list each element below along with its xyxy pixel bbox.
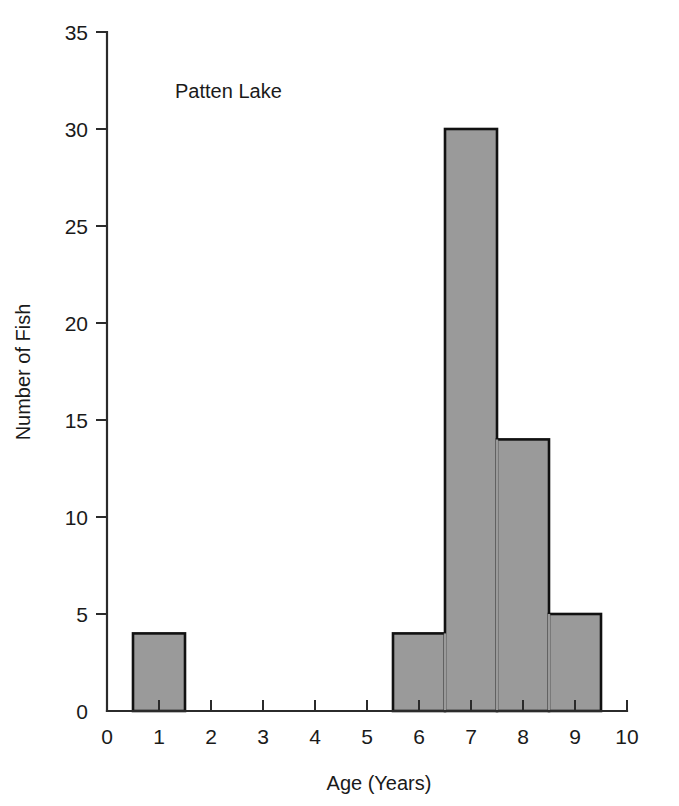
x-tick-label: 3 — [257, 725, 269, 748]
x-tick-label: 7 — [465, 725, 477, 748]
x-tick-label: 8 — [517, 725, 529, 748]
series-annotation-label: Patten Lake — [175, 80, 282, 102]
histogram-bar — [393, 633, 445, 711]
x-tick-label: 5 — [361, 725, 373, 748]
histogram-bar — [497, 439, 549, 711]
y-tick-label: 20 — [65, 312, 88, 335]
x-axis-title: Age (Years) — [327, 772, 432, 794]
x-tick-label: 6 — [413, 725, 425, 748]
x-tick-label: 10 — [615, 725, 638, 748]
y-tick-label: 30 — [65, 118, 88, 141]
histogram-bar — [133, 633, 185, 711]
x-tick-label: 1 — [153, 725, 165, 748]
y-tick-label: 10 — [65, 506, 88, 529]
y-axis-title: Number of Fish — [12, 304, 34, 441]
x-tick-label: 2 — [205, 725, 217, 748]
chart-canvas: 05101520253035 012345678910 Patten Lake … — [0, 0, 679, 806]
histogram-bar — [445, 129, 497, 711]
y-tick-label: 25 — [65, 215, 88, 238]
x-tick-label: 4 — [309, 725, 321, 748]
y-tick-label: 15 — [65, 409, 88, 432]
y-tick-label: 5 — [76, 603, 88, 626]
y-tick-label: 35 — [65, 21, 88, 44]
x-tick-label: 9 — [569, 725, 581, 748]
histogram-bar — [549, 614, 601, 711]
x-tick-label: 0 — [101, 725, 113, 748]
y-tick-label: 0 — [76, 700, 88, 723]
histogram-figure: 05101520253035 012345678910 Patten Lake … — [0, 0, 679, 806]
